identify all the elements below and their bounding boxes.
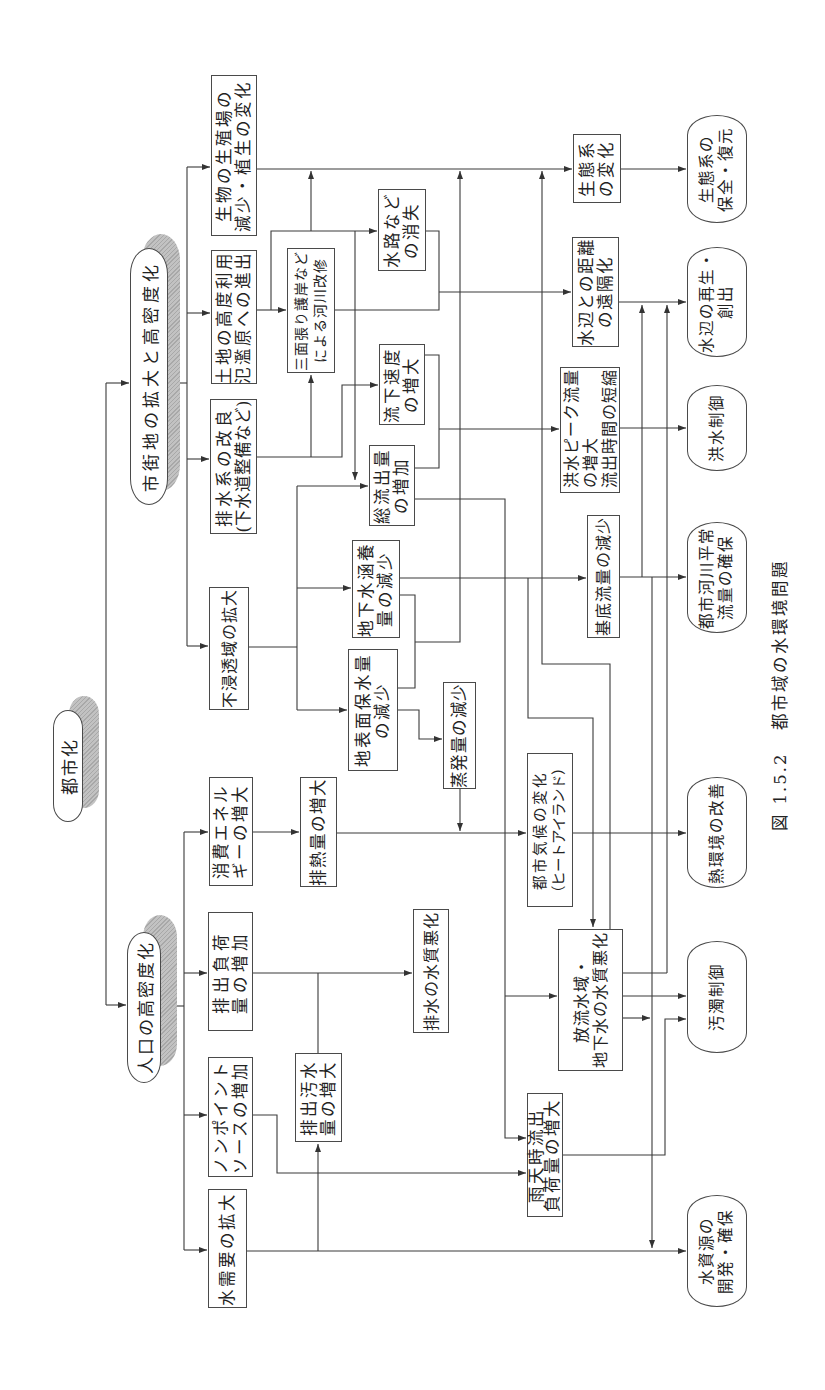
group-node-population-density: 人口の高密度化 [127,932,161,1083]
node-label: 生態系 [578,140,597,197]
node-flood-peak: 洪水ピーク流量 の増大 流出時間の短縮 [560,367,620,493]
outcome-label: 水資源の [698,1217,717,1285]
node-label: の変化 [597,140,616,197]
outcome-label: 保全・復元 [717,127,736,212]
outcome-label: 汚濁制御 [708,963,727,1031]
outcome-label: 都市河川平常 [698,527,717,629]
root-node-urbanization: 都市化 [53,710,83,822]
node-label: 地下水涵養 [357,542,376,637]
node-label: 水路など [383,192,402,268]
diagram-canvas: 都市化 市街地の拡大と高密度化 人口の高密度化 生物の生殖場の 減少・植生の変化… [0,0,825,1390]
node-impervious-area: 不浸透域の拡大 [209,587,249,710]
node-label: 量の増大 [319,1060,338,1136]
node-label: 消費エネル [212,784,231,879]
node-energy-consumption: 消費エネル ギーの増大 [209,777,253,886]
node-waterway-loss: 水路など の消失 [378,189,426,271]
node-nonpoint-source: ノンポイント ソースの増加 [208,1057,253,1177]
node-label: 流下速度 [383,347,402,423]
node-label: 三面張り護岸など [292,251,311,371]
node-label: 都市気候の変化 [531,771,550,890]
node-receiving-water-quality: 放流水域・ 地下水の水質悪化 [558,929,623,1071]
outcome-river-baseflow: 都市河川平常 流量の確保 [687,522,747,633]
node-drainage-improvement: 排水系の改良 (下水道整備など) [210,399,257,534]
node-urban-climate: 都市気候の変化 （ヒートアイランド） [527,753,573,907]
node-label: の遠隔化 [596,256,615,328]
node-label: 量の増加 [231,930,250,1014]
node-label: 放流水域・ [572,958,591,1043]
node-label: 人口の高密度化 [132,941,157,1074]
outcome-flood-control: 洪水制御 [687,385,747,471]
outcome-label: 創出 [717,285,736,319]
node-label: 量の減少 [376,551,395,627]
node-discharge-load: 排出負荷 量の増加 [208,912,253,1031]
node-label: 基底流量の減少 [594,517,613,636]
node-label: 排水系の改良 [215,407,234,527]
node-wastewater-volume: 排出汚水 量の増大 [295,1053,342,1142]
node-label: 水需要の拡大 [218,1192,237,1306]
node-total-runoff: 総流出量 の増加 [369,445,415,526]
node-label: 総流出量 [373,448,392,524]
outcome-label: 熱環境の改善 [708,782,727,884]
node-surface-retention: 地表面保水量 の減少 [348,649,398,771]
node-evaporation: 蒸発量の減少 [443,682,476,789]
node-label: 氾濫原への進出 [234,251,253,384]
outcome-label: 水辺の再生・ [698,251,717,353]
group-node-urban-expansion: 市街地の拡大と高密度化 [130,248,168,505]
node-label: 負荷量の増大 [545,1098,561,1212]
node-label: 排熱量の増大 [309,778,328,886]
node-label: ノンポイント [212,1060,231,1174]
outcome-water-resources: 水資源の 開発・確保 [687,1195,747,1307]
node-label: 減少・植生の変化 [234,80,253,232]
node-groundwater-recharge: 地下水涵養 量の減少 [352,540,400,638]
outcome-waterfront-restoration: 水辺の再生・ 創出 [687,247,747,357]
outcome-pollution-control: 汚濁制御 [687,941,747,1053]
node-waste-heat: 排熱量の増大 [300,777,337,887]
outcome-label: 生態系の [698,135,717,203]
figure-number: 図 1.5.2 [767,752,791,830]
node-label: 水辺との距離 [577,238,596,346]
node-effluent-quality: 排水の水質悪化 [413,909,449,1033]
node-label: 流出時間の短縮 [600,369,619,488]
node-label: 蒸発量の減少 [450,683,469,788]
node-label: 不浸透域の拡大 [220,589,239,708]
node-label: の減少 [373,682,392,739]
node-label: 排出汚水 [300,1060,319,1136]
node-label: の増加 [392,457,411,514]
node-waterfront-distance: 水辺との距離 の遠隔化 [572,237,619,347]
outcome-ecosystem-conservation: 生態系の 保全・復元 [687,115,747,223]
node-label: ギーの増大 [231,784,250,879]
node-land-use: 土地の高度利用 氾濫原への進出 [211,250,257,384]
outcome-label: 開発・確保 [717,1209,736,1294]
node-label: の消失 [402,202,421,259]
figure-page: 都市化 市街地の拡大と高密度化 人口の高密度化 生物の生殖場の 減少・植生の変化… [0,0,825,1390]
outcome-label: 洪水制御 [708,394,727,462]
node-label: 地下水の水質悪化 [591,932,610,1068]
node-water-demand: 水需要の拡大 [208,1189,247,1308]
node-label: ソースの増加 [231,1061,250,1174]
node-wet-weather-load: 雨天時流出 負荷量の増大 [527,1093,563,1217]
figure-title: 都市域の水環境問題 [767,559,791,730]
node-label: 排出負荷 [212,930,231,1014]
node-label: の増大 [402,356,421,413]
outcome-label: 流量の確保 [717,535,736,620]
node-label: 市街地の拡大と高密度化 [137,261,162,492]
node-flow-velocity: 流下速度 の増大 [379,344,425,425]
node-label: による河川改修 [311,258,330,363]
node-label: の増大 [581,437,600,488]
node-baseflow-decrease: 基底流量の減少 [587,515,620,638]
node-label: 排水の水質悪化 [422,912,441,1031]
node-label: 都市化 [56,738,81,795]
node-ecosystem-change: 生態系 の変化 [573,134,621,203]
node-habitat-loss: 生物の生殖場の 減少・植生の変化 [211,75,257,236]
node-label: 地表面保水量 [354,653,373,767]
outcome-thermal-environment: 熱環境の改善 [687,777,747,888]
node-label: （ヒートアイランド） [550,761,569,900]
node-label: 土地の高度利用 [215,251,234,384]
node-channelization: 三面張り護岸など による河川改修 [287,248,335,373]
figure-caption: 図 1.5.2都市域の水環境問題 [767,0,791,1390]
node-label: (下水道整備など) [234,401,253,533]
node-label: 生物の生殖場の [215,89,234,222]
node-label: 洪水ピーク流量 [562,369,581,488]
